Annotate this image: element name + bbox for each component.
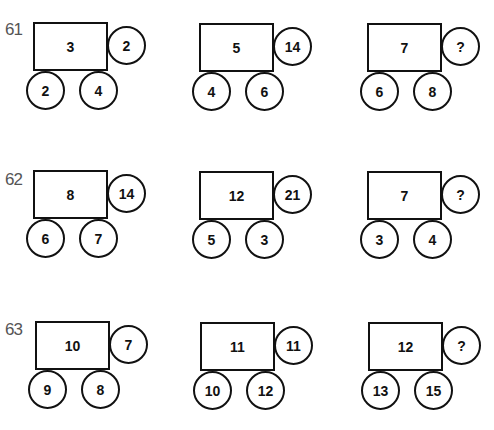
- box: 10: [35, 321, 110, 370]
- puzzle-62-group-2: 12 21 5 3: [199, 171, 319, 263]
- right-circle: 11: [274, 326, 313, 365]
- box: 3: [33, 22, 108, 71]
- bottom-right-circle: 15: [414, 371, 453, 410]
- bottom-left-circle: 10: [193, 371, 232, 410]
- puzzle-62-group-1: 8 14 6 7: [33, 170, 153, 262]
- bottom-left-circle: 2: [26, 71, 65, 110]
- puzzle-63-group-3: 12 ? 13 15: [368, 322, 488, 414]
- puzzle-61-group-1: 3 2 2 4: [33, 22, 153, 114]
- box: 11: [200, 322, 275, 371]
- bottom-left-circle: 6: [26, 219, 65, 258]
- box: 8: [33, 170, 108, 219]
- bottom-right-circle: 8: [413, 72, 452, 111]
- bottom-left-circle: 3: [360, 220, 399, 259]
- bottom-left-circle: 13: [361, 371, 400, 410]
- bottom-left-circle: 6: [360, 72, 399, 111]
- puzzle-63-group-1: 10 7 9 8: [35, 321, 155, 413]
- box: 12: [368, 322, 443, 371]
- bottom-right-circle: 12: [246, 371, 285, 410]
- bottom-right-circle: 4: [79, 71, 118, 110]
- bottom-left-circle: 4: [192, 72, 231, 111]
- bottom-right-circle: 3: [245, 220, 284, 259]
- right-circle: 2: [107, 26, 146, 65]
- box: 7: [367, 171, 442, 220]
- puzzle-number-63: 63: [5, 320, 22, 340]
- bottom-right-circle: 8: [81, 370, 120, 409]
- bottom-right-circle: 6: [245, 72, 284, 111]
- puzzle-61-group-2: 5 14 4 6: [199, 23, 319, 115]
- puzzle-63-group-2: 11 11 10 12: [200, 322, 320, 414]
- right-circle: 7: [109, 325, 148, 364]
- puzzle-61-group-3: 7 ? 6 8: [367, 23, 487, 115]
- right-circle-unknown: ?: [442, 326, 481, 365]
- right-circle: 14: [107, 174, 146, 213]
- puzzle-number-62: 62: [5, 170, 22, 190]
- puzzle-number-61: 61: [5, 20, 22, 40]
- box: 5: [199, 23, 274, 72]
- bottom-left-circle: 9: [28, 370, 67, 409]
- bottom-right-circle: 7: [79, 219, 118, 258]
- puzzle-62-group-3: 7 ? 3 4: [367, 171, 487, 263]
- bottom-left-circle: 5: [192, 220, 231, 259]
- box: 12: [199, 171, 274, 220]
- right-circle-unknown: ?: [441, 175, 480, 214]
- right-circle: 21: [273, 175, 312, 214]
- bottom-right-circle: 4: [413, 220, 452, 259]
- right-circle: 14: [273, 27, 312, 66]
- box: 7: [367, 23, 442, 72]
- right-circle-unknown: ?: [441, 27, 480, 66]
